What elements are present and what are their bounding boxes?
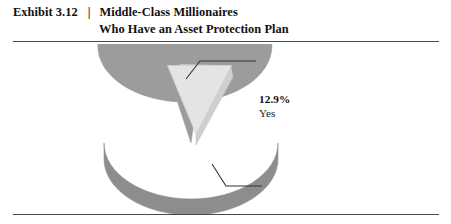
pie-slice-no-side [104,143,278,214]
exhibit-figure: Exhibit 3.12 | Middle-Class Millionaires… [0,0,451,224]
callout-yes-category: Yes [259,107,290,121]
title-divider-rule [13,41,439,42]
pie-slice-yes [168,64,234,145]
footer-divider-rule [13,214,439,215]
pie-chart-svg [0,44,451,214]
title-separator: | [88,4,91,21]
callout-yes-percent: 12.9% [259,93,290,107]
pie-chart: 12.9% Yes 88.1% No [0,44,451,214]
figure-title-line-1: Exhibit 3.12 | Middle-Class Millionaires [13,4,433,21]
figure-title-line-2: Who Have an Asset Protection Plan [99,21,433,38]
page-title: Middle-Class Millionaires [99,4,237,21]
figure-title-block: Exhibit 3.12 | Middle-Class Millionaires… [13,4,433,37]
callout-yes: 12.9% Yes [259,93,290,120]
exhibit-number-label: Exhibit 3.12 [13,4,78,21]
